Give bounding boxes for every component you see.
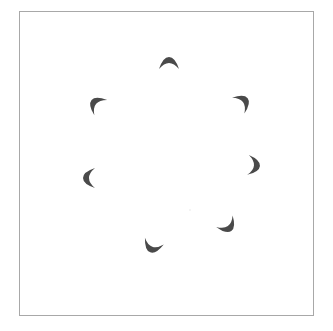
faint-dot [189, 209, 191, 211]
crescent-left [83, 168, 95, 188]
crescent-upper-left [85, 92, 107, 115]
crescent-upper-right [232, 90, 254, 113]
crescent-right [247, 155, 261, 176]
crescent-ring [0, 0, 333, 331]
crescent-top [159, 57, 179, 69]
crescent-lower-right [216, 215, 239, 236]
crescent-bottom [141, 238, 164, 256]
diagram-canvas [0, 0, 333, 331]
